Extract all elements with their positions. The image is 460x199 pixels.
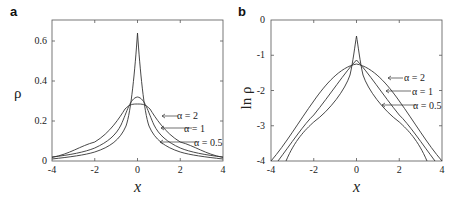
y-tick-label: 0.4 xyxy=(35,75,48,86)
x-tick-label: 4 xyxy=(221,164,226,175)
legend-alpha-1: α = 1 xyxy=(184,123,205,134)
y-tick-label: 0 xyxy=(42,155,47,166)
y-tick-label: -3 xyxy=(257,120,265,131)
legend-alpha-2: α = 2 xyxy=(404,72,425,83)
y-tick-label: -1 xyxy=(257,49,265,60)
x-tick-label: 2 xyxy=(178,164,183,175)
curve-alpha-0.5 xyxy=(286,36,427,161)
legend-alpha-2: α = 2 xyxy=(177,110,198,121)
x-tick-label: -4 xyxy=(48,164,56,175)
figure: a -4 -2 0 2 4 0 0.2 0.4 0.6 ρ x xyxy=(0,0,460,199)
x-tick-label: -4 xyxy=(267,164,275,175)
panel-a: a -4 -2 0 2 4 0 0.2 0.4 0.6 ρ x xyxy=(10,4,226,195)
y-axis-label-b: ln ρ xyxy=(238,87,254,110)
legend-alpha-0.5: α = 0.5 xyxy=(194,137,222,148)
legend-alpha-0.5: α = 0.5 xyxy=(413,100,441,111)
x-tick-label: 0 xyxy=(135,164,140,175)
x-tick-label: 0 xyxy=(354,164,359,175)
x-tick-label: -2 xyxy=(310,164,318,175)
x-tick-label: -2 xyxy=(91,164,99,175)
y-tick-label: -4 xyxy=(257,155,265,166)
panel-label-b: b xyxy=(238,4,246,19)
y-tick-label: 0.6 xyxy=(35,35,48,46)
x-axis-label-b: x xyxy=(352,178,360,195)
panel-b: b -4 -2 0 2 4 0 -1 -2 -3 -4 ln ρ x α = xyxy=(238,4,445,195)
panel-label-a: a xyxy=(10,4,18,19)
legend-alpha-1: α = 1 xyxy=(412,86,433,97)
x-tick-label: 4 xyxy=(440,164,445,175)
y-axis-label-a: ρ xyxy=(14,85,22,101)
x-axis-label-a: x xyxy=(133,178,141,195)
y-tick-label: 0 xyxy=(260,14,265,25)
x-tick-label: 2 xyxy=(397,164,402,175)
y-tick-label: 0.2 xyxy=(35,115,48,126)
y-tick-label: -2 xyxy=(257,85,265,96)
